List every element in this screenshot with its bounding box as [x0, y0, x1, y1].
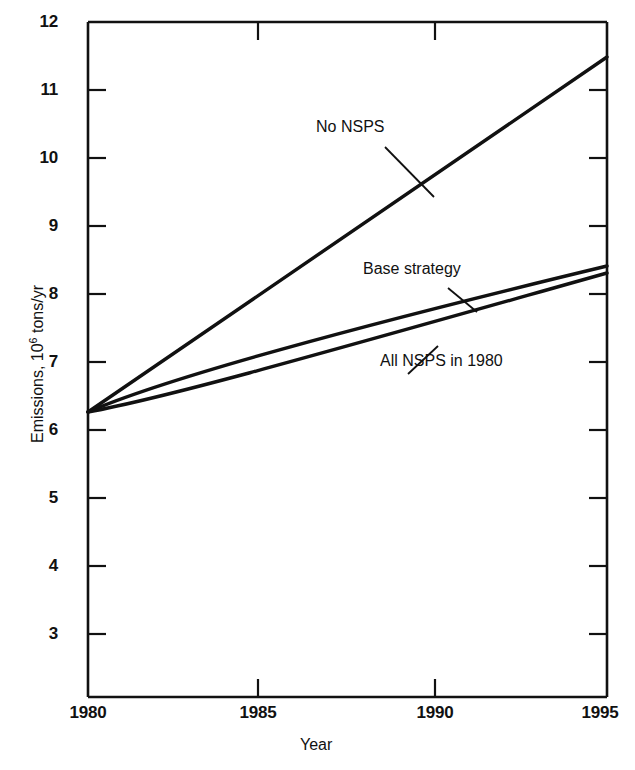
y-tick-label-9: 9 — [18, 216, 58, 236]
series-annotation-base-strategy: Base strategy — [363, 260, 461, 278]
leader-line-base-strategy — [448, 288, 477, 312]
y-axis-ticks-right — [589, 90, 607, 634]
y-tick-label-5: 5 — [18, 488, 58, 508]
y-tick-label-10: 10 — [18, 148, 58, 168]
y-tick-label-12: 12 — [18, 12, 58, 32]
leader-line-no-nsps — [385, 147, 434, 197]
emissions-line-chart: 12 11 10 9 8 7 6 5 4 3 1980 1985 1990 19… — [0, 0, 635, 770]
x-axis-ticks — [258, 679, 435, 697]
x-tick-label-1980: 1980 — [53, 703, 123, 723]
series-annotation-no-nsps: No NSPS — [316, 118, 384, 136]
x-tick-label-1995: 1995 — [565, 703, 635, 723]
x-axis-ticks-top — [258, 22, 435, 40]
x-axis-title: Year — [300, 736, 332, 754]
y-axis-ticks — [88, 90, 106, 634]
x-tick-label-1990: 1990 — [400, 703, 470, 723]
series-line-base-strategy — [88, 266, 607, 412]
y-tick-label-3: 3 — [18, 624, 58, 644]
y-axis-title-exponent: 6 — [27, 338, 39, 344]
y-tick-label-11: 11 — [18, 80, 58, 100]
chart-plot-area — [0, 0, 635, 770]
y-axis-title-suffix: tons/yr — [29, 285, 46, 337]
series-line-no-nsps — [88, 57, 607, 412]
y-axis-title-prefix: Emissions, 10 — [29, 343, 46, 443]
series-annotation-all-nsps-1980: All NSPS in 1980 — [380, 352, 503, 370]
series-line-all-nsps-1980 — [88, 273, 607, 412]
x-tick-label-1985: 1985 — [223, 703, 293, 723]
y-axis-title: Emissions, 106 tons/yr — [29, 264, 47, 464]
y-tick-label-4: 4 — [18, 556, 58, 576]
